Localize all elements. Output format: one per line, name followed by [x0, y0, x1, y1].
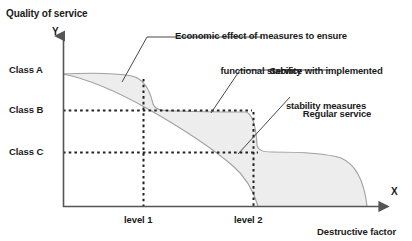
annotation-regular-service: Regular service	[277, 85, 397, 143]
annotation-regular-service-line1: Regular service	[277, 108, 397, 120]
y-tick-class-c: Class C	[9, 146, 43, 158]
x-tick-level-1: level 1	[124, 214, 152, 226]
y-tick-class-a: Class A	[9, 64, 43, 76]
diagram-root: Quality of service Y Class A Class B Cla…	[0, 0, 412, 241]
x-axis-symbol: X	[391, 186, 398, 198]
annotation-economic-effect-line1: Economic effect of measures to ensure	[136, 30, 386, 42]
x-axis-title: Destructive factor	[317, 226, 396, 238]
y-axis-symbol: Y	[52, 26, 59, 38]
x-tick-level-2: level 2	[234, 214, 262, 226]
annotation-improved-service-line1: Service with implemented	[243, 65, 409, 77]
y-tick-class-b: Class B	[9, 104, 43, 116]
y-axis-title: Quality of service	[6, 8, 88, 20]
